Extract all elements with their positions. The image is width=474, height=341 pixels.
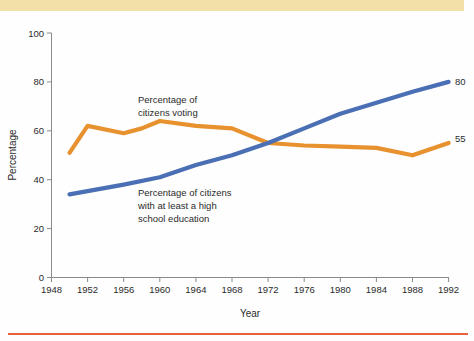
x-tick-label-1980: 1980 bbox=[330, 284, 351, 295]
line-chart: 0 20 40 60 80 100 1948 1952 1956 1960 19… bbox=[0, 0, 474, 341]
annotation-voting: Percentage of citizens voting bbox=[138, 94, 198, 118]
y-axis-title: Percentage bbox=[7, 129, 18, 181]
x-tick-label-1956: 1956 bbox=[113, 284, 134, 295]
x-tick-label-1960: 1960 bbox=[149, 284, 170, 295]
annotation-voting-line1: Percentage of bbox=[138, 94, 198, 105]
bottom-divider-rule bbox=[8, 333, 468, 335]
x-tick-label-1992: 1992 bbox=[438, 284, 459, 295]
annotation-voting-line2: citizens voting bbox=[138, 107, 198, 118]
x-tick-label-1972: 1972 bbox=[258, 284, 279, 295]
x-tick-label-1976: 1976 bbox=[294, 284, 315, 295]
annotation-education-line2: with at least a high bbox=[137, 200, 217, 211]
annotation-education-line3: school education bbox=[138, 213, 209, 224]
chart-figure: 0 20 40 60 80 100 1948 1952 1956 1960 19… bbox=[0, 0, 474, 341]
annotation-education-line1: Percentage of citizens bbox=[138, 187, 232, 198]
x-tick-label-1952: 1952 bbox=[77, 284, 98, 295]
y-axis-ticks bbox=[47, 33, 52, 278]
y-tick-label-80: 80 bbox=[33, 76, 44, 87]
x-tick-label-1948: 1948 bbox=[41, 284, 62, 295]
y-tick-label-0: 0 bbox=[39, 272, 44, 283]
x-tick-label-1968: 1968 bbox=[221, 284, 242, 295]
end-label-education: 80 bbox=[455, 76, 466, 87]
annotation-education: Percentage of citizens with at least a h… bbox=[137, 187, 232, 224]
y-tick-label-60: 60 bbox=[33, 125, 44, 136]
end-label-voting: 55 bbox=[455, 133, 466, 144]
series-line-voting bbox=[70, 121, 449, 155]
y-tick-label-20: 20 bbox=[33, 223, 44, 234]
y-tick-label-40: 40 bbox=[33, 174, 44, 185]
x-axis-ticks bbox=[52, 278, 449, 283]
x-tick-label-1984: 1984 bbox=[366, 284, 387, 295]
x-tick-label-1988: 1988 bbox=[402, 284, 423, 295]
x-tick-label-1964: 1964 bbox=[185, 284, 206, 295]
x-axis-title: Year bbox=[240, 308, 261, 319]
y-tick-label-100: 100 bbox=[28, 28, 44, 39]
